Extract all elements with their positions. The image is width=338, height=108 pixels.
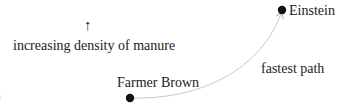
farmer-brown-node <box>126 94 134 102</box>
clipped-edge-glyph: ) <box>0 90 1 102</box>
edge-label: fastest path <box>261 62 324 76</box>
up-arrow-icon: ↑ <box>84 18 92 33</box>
gradient-label: increasing density of manure <box>13 39 175 53</box>
einstein-node <box>278 6 286 14</box>
diagram-canvas <box>0 0 338 108</box>
farmer-brown-label: Farmer Brown <box>117 76 199 90</box>
einstein-label: Einstein <box>289 4 335 18</box>
